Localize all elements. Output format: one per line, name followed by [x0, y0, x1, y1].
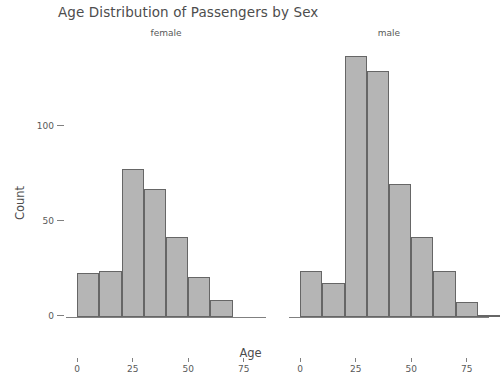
- x-axis-tick-label: 25: [350, 364, 361, 374]
- y-axis-tick: 50: [18, 216, 64, 226]
- y-axis-ticks: 050100: [0, 0, 64, 380]
- y-axis-tick-mark: [57, 315, 64, 316]
- facet-label-male: male: [289, 28, 489, 38]
- x-axis-tick-label: 50: [405, 364, 416, 374]
- histogram-bar: [345, 56, 367, 317]
- x-axis-tick-label: 0: [297, 364, 303, 374]
- facet-label-female: female: [66, 28, 266, 38]
- panel-male: 0255075: [289, 40, 489, 318]
- x-axis-tick-mark: [77, 358, 78, 362]
- x-axis-tick-mark: [300, 358, 301, 362]
- x-axis-tick-mark: [243, 358, 244, 362]
- x-axis-tick-mark: [355, 358, 356, 362]
- histogram-bar: [300, 271, 322, 317]
- chart-figure: Age Distribution of Passengers by Sex fe…: [0, 0, 501, 380]
- x-axis-line-male: [289, 317, 489, 318]
- histogram-bar: [77, 273, 99, 317]
- x-axis-tick: 25: [336, 358, 376, 374]
- x-axis-tick: 50: [168, 358, 208, 374]
- plot-area-female: [66, 42, 266, 318]
- histogram-bar: [210, 300, 232, 317]
- x-axis-tick-label: 25: [127, 364, 138, 374]
- x-axis-tick-label: 75: [461, 364, 472, 374]
- x-axis-tick: 75: [447, 358, 487, 374]
- x-axis-tick: 75: [224, 358, 264, 374]
- histogram-bar: [322, 283, 344, 317]
- x-axis-tick: 0: [57, 358, 97, 374]
- y-axis-tick-label: 50: [43, 216, 54, 226]
- histogram-bar: [456, 302, 478, 317]
- histogram-bar: [411, 237, 433, 317]
- histogram-bar: [389, 184, 411, 317]
- x-axis-tick-label: 0: [74, 364, 80, 374]
- x-axis-tick-mark: [188, 358, 189, 362]
- panel-female: 0255075: [66, 40, 266, 318]
- y-axis-tick-label: 100: [37, 121, 54, 131]
- x-axis-line-female: [66, 317, 266, 318]
- chart-title: Age Distribution of Passengers by Sex: [58, 4, 318, 20]
- x-axis-tick-mark: [411, 358, 412, 362]
- x-axis-tick-label: 75: [238, 364, 249, 374]
- plot-area-male: [289, 42, 489, 318]
- y-axis-tick-label: 0: [48, 311, 54, 321]
- x-axis-tick: 25: [113, 358, 153, 374]
- x-axis-tick-mark: [466, 358, 467, 362]
- histogram-bar: [367, 71, 389, 317]
- histogram-bar: [478, 315, 500, 317]
- histogram-bar: [433, 271, 455, 317]
- y-axis-tick: 100: [18, 121, 64, 131]
- x-axis-ticks-male: 0255075: [289, 358, 489, 380]
- x-axis-ticks-female: 0255075: [66, 358, 266, 380]
- x-axis-tick-label: 50: [182, 364, 193, 374]
- y-axis-tick: 0: [18, 311, 64, 321]
- y-axis-tick-mark: [57, 125, 64, 126]
- histogram-bar: [188, 277, 210, 317]
- histogram-bar: [122, 169, 144, 317]
- x-axis-tick: 0: [280, 358, 320, 374]
- x-axis-tick: 50: [391, 358, 431, 374]
- histogram-bar: [166, 237, 188, 317]
- histogram-bar: [99, 271, 121, 317]
- histogram-bar: [144, 189, 166, 317]
- y-axis-tick-mark: [57, 220, 64, 221]
- x-axis-tick-mark: [132, 358, 133, 362]
